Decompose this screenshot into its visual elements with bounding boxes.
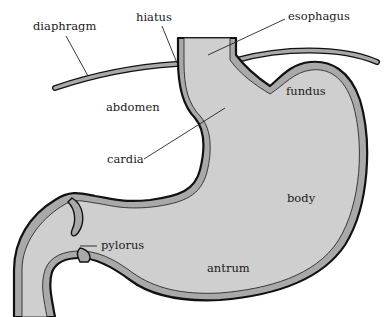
leader-diaphragm bbox=[66, 36, 88, 76]
label-abdomen: abdomen bbox=[106, 100, 160, 114]
stomach-diagram: diaphragm hiatus esophagus abdomen fundu… bbox=[0, 0, 385, 317]
diaphragm-right bbox=[237, 51, 377, 63]
leader-hiatus bbox=[162, 26, 177, 63]
label-hiatus: hiatus bbox=[136, 10, 172, 24]
label-antrum: antrum bbox=[207, 261, 250, 275]
label-diaphragm: diaphragm bbox=[33, 19, 96, 33]
label-esophagus: esophagus bbox=[288, 9, 350, 23]
diaphragm-left bbox=[55, 64, 176, 88]
label-pylorus: pylorus bbox=[101, 238, 144, 252]
label-cardia: cardia bbox=[107, 152, 144, 166]
label-fundus: fundus bbox=[286, 84, 326, 98]
label-body: body bbox=[287, 191, 316, 205]
